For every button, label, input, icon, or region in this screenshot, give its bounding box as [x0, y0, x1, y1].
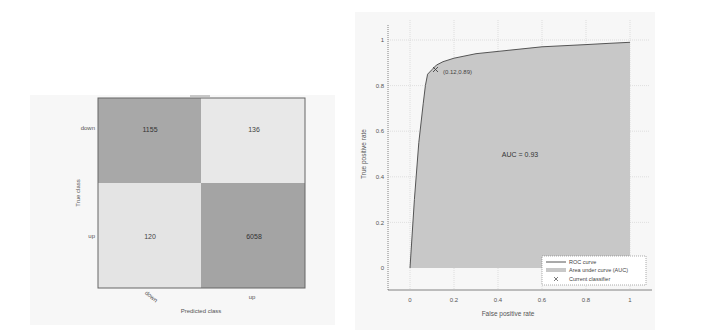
col-label: down: [144, 290, 159, 304]
col-label: up: [249, 294, 256, 300]
svg-text:0.2: 0.2: [376, 220, 385, 226]
auc-annotation: AUC = 0.93: [502, 151, 538, 158]
svg-text:0.4: 0.4: [494, 297, 503, 303]
svg-text:0.6: 0.6: [538, 297, 547, 303]
x-axis-title: False positive rate: [482, 310, 535, 318]
y-axis-title: True class: [75, 179, 81, 206]
point-annotation: (0.12,0.89): [443, 69, 472, 75]
legend-label: Current classifier: [569, 276, 610, 282]
svg-text:0.2: 0.2: [450, 297, 459, 303]
row-label: up: [88, 233, 95, 239]
cell-value: 120: [144, 233, 156, 240]
svg-text:0.8: 0.8: [582, 297, 591, 303]
legend: ROC curve Area under curve (AUC) Current…: [542, 256, 646, 285]
svg-text:0.6: 0.6: [376, 128, 385, 134]
cell-value: 1155: [142, 126, 157, 133]
legend-area-icon: [546, 268, 566, 272]
legend-label: Area under curve (AUC): [569, 267, 628, 273]
x-axis-title: Predicted class: [181, 308, 222, 314]
cell-value: 136: [248, 126, 260, 133]
figure-canvas: 1155 136 120 6058 down up True class dow…: [0, 0, 704, 333]
cell-down-up: [201, 98, 305, 183]
y-axis-title: True positive rate: [360, 129, 368, 179]
row-label: down: [81, 125, 95, 131]
svg-text:0.4: 0.4: [376, 174, 385, 180]
cell-down-down: [98, 98, 201, 183]
svg-text:0.8: 0.8: [376, 83, 385, 89]
confusion-matrix: 1155 136 120 6058 down up True class dow…: [75, 96, 305, 314]
cell-value: 6058: [246, 233, 262, 240]
legend-label: ROC curve: [569, 259, 596, 265]
